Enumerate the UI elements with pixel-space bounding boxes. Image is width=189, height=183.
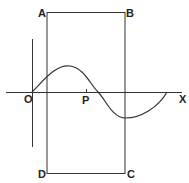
sine-curve — [32, 66, 167, 118]
label-o: O — [24, 93, 33, 105]
label-x: X — [179, 93, 187, 105]
label-c: C — [127, 168, 135, 180]
label-p: P — [82, 94, 89, 106]
label-d: D — [38, 168, 46, 180]
label-a: A — [38, 7, 46, 19]
diagram-canvas: A B C D O P X — [0, 0, 189, 183]
label-b: B — [126, 7, 134, 19]
